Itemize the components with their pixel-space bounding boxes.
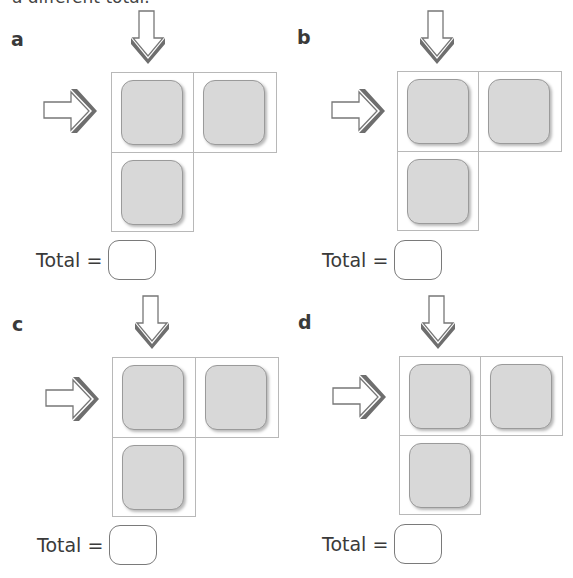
panel-a: a Total = xyxy=(0,0,286,289)
grid-cell xyxy=(397,151,479,231)
grid-cell xyxy=(112,357,196,438)
grid-cell xyxy=(397,71,479,152)
grid-cell xyxy=(478,71,562,152)
tile xyxy=(490,364,552,429)
grid-cell xyxy=(195,357,279,438)
tile-grid xyxy=(112,357,277,517)
panel-label: c xyxy=(12,313,23,335)
grid-cell xyxy=(399,356,481,436)
panel-d: d Total = xyxy=(286,289,572,578)
total-answer-box[interactable] xyxy=(394,240,442,280)
total-label: Total = xyxy=(36,249,102,271)
tile xyxy=(121,160,183,225)
tile-grid xyxy=(397,71,562,231)
total-answer-box[interactable] xyxy=(109,525,157,565)
grid-cell xyxy=(193,72,277,153)
total-answer-box[interactable] xyxy=(108,240,156,280)
tile xyxy=(205,365,267,430)
grid-cell xyxy=(111,152,194,232)
total-row: Total = xyxy=(36,239,156,281)
right-arrow-icon xyxy=(330,86,386,136)
grid-cell xyxy=(112,437,196,517)
down-arrow-icon xyxy=(132,294,172,350)
total-row: Total = xyxy=(37,524,157,566)
grid-cell xyxy=(111,72,194,153)
tile xyxy=(121,80,183,145)
down-arrow-icon xyxy=(128,9,168,65)
total-row: Total = xyxy=(322,239,442,281)
tile-grid xyxy=(399,356,564,516)
right-arrow-icon xyxy=(44,374,100,424)
right-arrow-icon xyxy=(331,372,387,422)
down-arrow-icon xyxy=(417,9,457,65)
tile xyxy=(409,364,471,429)
tile xyxy=(407,159,469,224)
tile xyxy=(122,445,184,510)
total-label: Total = xyxy=(322,249,388,271)
panel-label: d xyxy=(298,311,312,333)
right-arrow-icon xyxy=(42,86,98,136)
panel-c: c Total = xyxy=(0,289,286,578)
tile xyxy=(407,79,469,144)
panel-b: b Total = xyxy=(286,0,572,289)
tile-grid xyxy=(111,72,276,232)
down-arrow-icon xyxy=(418,294,458,350)
panel-label: b xyxy=(297,26,311,48)
total-answer-box[interactable] xyxy=(394,524,442,564)
tile xyxy=(203,80,265,145)
tile xyxy=(409,443,471,508)
grid-cell xyxy=(399,435,481,515)
total-label: Total = xyxy=(37,534,103,556)
grid-cell xyxy=(480,356,563,436)
total-row: Total = xyxy=(322,523,442,565)
tile xyxy=(122,365,184,430)
total-label: Total = xyxy=(322,533,388,555)
tile xyxy=(488,79,550,144)
panel-label: a xyxy=(11,28,24,50)
